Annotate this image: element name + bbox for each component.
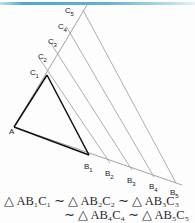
triangle-side-a-c1 — [14, 75, 47, 127]
figure-page: A B1 B2 B3 B4 B5 C1 C2 C3 C4 C5 △ AB₁C₁ … — [0, 0, 195, 223]
segment-c2-b2 — [39, 58, 110, 163]
triangle-side-c1-b1 — [47, 75, 89, 155]
triangle-side-a-b1 — [14, 127, 89, 155]
point-label-c1: C1 — [30, 69, 39, 77]
point-label-b4: B4 — [149, 183, 157, 191]
point-label-c3: C3 — [48, 38, 57, 46]
caption-line-1: △ AB₁C₁ ∼ △ AB₂C₂ ∼ △ AB₃C₃ — [0, 194, 195, 208]
point-label-b2: B2 — [105, 170, 113, 178]
point-label-b3: B3 — [127, 177, 135, 185]
segment-c5-b5 — [83, 10, 176, 183]
similar-triangles-diagram — [0, 0, 195, 195]
point-label-c4: C4 — [58, 23, 67, 31]
segment-c3-b3 — [50, 42, 132, 170]
caption: △ AB₁C₁ ∼ △ AB₂C₂ ∼ △ AB₃C₃ ∼ △ AB₄C₄ ∼ … — [0, 194, 195, 223]
point-label-c5: C5 — [65, 7, 74, 15]
point-label-c2: C2 — [38, 53, 47, 61]
point-label-b1: B1 — [84, 163, 92, 171]
segment-c4-b4 — [66, 26, 154, 177]
point-label-a: A — [9, 128, 14, 136]
caption-line-2: ∼ △ AB₄C₄ ∼ △ AB₅C₅ — [0, 208, 195, 222]
